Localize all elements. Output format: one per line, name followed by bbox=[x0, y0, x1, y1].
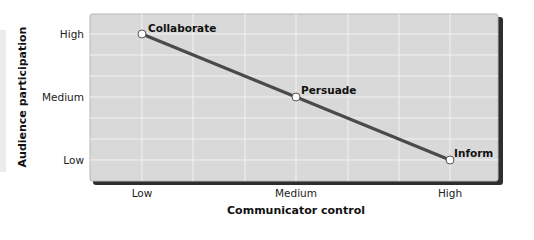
marker-inform bbox=[446, 156, 454, 164]
point-label-persuade: Persuade bbox=[301, 84, 356, 96]
x-tick-medium: Medium bbox=[275, 187, 317, 199]
point-label-collaborate: Collaborate bbox=[148, 22, 216, 34]
x-tick-high: High bbox=[438, 187, 462, 199]
marker-persuade bbox=[292, 93, 300, 101]
marker-collaborate bbox=[138, 30, 146, 38]
x-axis-title: Communicator control bbox=[227, 204, 365, 217]
x-tick-low: Low bbox=[132, 187, 153, 199]
point-label-inform: Inform bbox=[454, 147, 493, 159]
